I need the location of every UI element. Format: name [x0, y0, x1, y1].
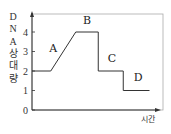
y-tick-label: 2 [23, 66, 28, 77]
x-axis-arrow [155, 108, 161, 112]
segment-label-d: D [134, 71, 143, 84]
y-axis-label-char: 대 [9, 60, 18, 71]
y-tick-label: 0 [23, 105, 28, 116]
x-axis-label: 시간 [141, 114, 156, 124]
y-tick-label: 4 [23, 27, 28, 38]
y-axis-label-char: D [9, 11, 16, 22]
y-tick-label: 3 [23, 46, 28, 57]
chart: 01234 DNA상대량 ABCD 시간 [0, 0, 171, 134]
segment-label-b: B [83, 14, 91, 27]
y-axis-label-char: A [9, 36, 17, 47]
segment-label-a: A [48, 42, 58, 55]
chart-frame [32, 14, 163, 110]
y-tick-label: 1 [23, 85, 28, 96]
segment-label-c: C [108, 52, 116, 65]
y-axis-label-char: N [9, 23, 16, 34]
y-axis-label-char: 량 [9, 73, 18, 84]
y-axis-label-char: 상 [9, 48, 18, 59]
